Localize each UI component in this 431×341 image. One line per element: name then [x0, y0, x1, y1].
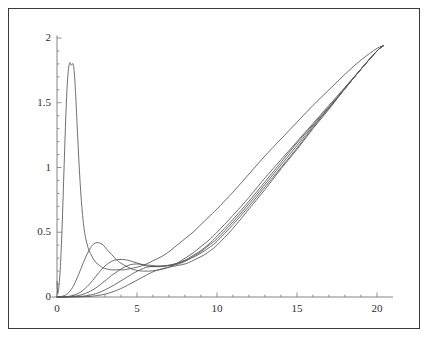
x-tick-label: 20	[357, 303, 397, 314]
series-curve-1	[57, 46, 383, 294]
x-tick-label: 10	[197, 303, 237, 314]
series-curve-3	[57, 46, 383, 297]
x-tick-label: 15	[277, 303, 317, 314]
figure-root: 0510152000.511.52	[0, 0, 431, 341]
x-tick-label: 5	[117, 303, 157, 314]
series-curve-6	[57, 46, 383, 297]
x-tick-label: 0	[37, 303, 77, 314]
y-tick-label: 1.5	[11, 97, 51, 108]
series-curve-5	[57, 46, 383, 297]
y-tick-label: 2	[11, 32, 51, 43]
curves-group	[57, 46, 383, 297]
series-curve-4	[57, 46, 383, 297]
axes-group	[51, 35, 393, 297]
y-tick-label: 0.5	[11, 226, 51, 237]
series-curve-2	[57, 46, 383, 297]
y-tick-label: 0	[11, 291, 51, 302]
y-tick-label: 1	[11, 162, 51, 173]
plot-canvas	[0, 0, 431, 341]
